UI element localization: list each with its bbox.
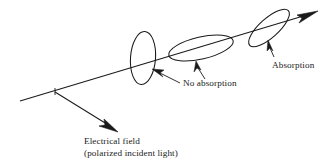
electrical-field-label-line1: Electrical field: [84, 136, 178, 148]
beam-axis-line: [20, 14, 310, 101]
no-absorption-label: No absorption: [183, 78, 237, 90]
leader-arrow-polarizer-3: [267, 40, 273, 51]
absorption-label: Absorption: [272, 60, 314, 72]
electrical-field-label: Electrical field (polarized incident lig…: [84, 136, 178, 159]
output-arrow-head: [297, 11, 318, 23]
leader-line-polarizer-1: [160, 73, 180, 83]
field-arrow-line: [55, 92, 110, 126]
polarizer-ellipse-2: [166, 30, 235, 66]
polarizer-ellipse-1: [129, 31, 158, 86]
figure-canvas: Electrical field (polarized incident lig…: [0, 0, 333, 166]
electrical-field-label-line2: (polarized incident light): [84, 148, 178, 160]
leader-arrow-polarizer-1: [152, 69, 164, 77]
